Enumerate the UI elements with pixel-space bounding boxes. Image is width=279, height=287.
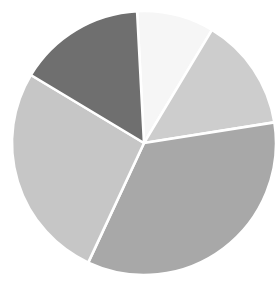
pie-chart-figure (0, 0, 279, 287)
pie-slice-group (12, 11, 276, 275)
pie-chart-svg (0, 0, 279, 287)
